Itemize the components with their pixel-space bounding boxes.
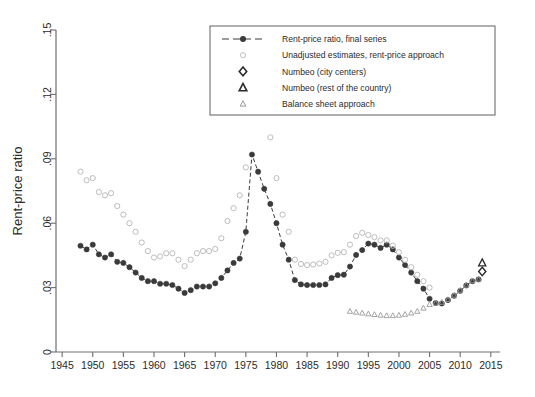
data-point-filled-circle xyxy=(164,281,169,286)
legend-label: Balance sheet approach xyxy=(282,99,375,109)
legend-label: Rent-price ratio, final series xyxy=(282,34,387,44)
y-axis-tick-label: .15 xyxy=(41,23,53,38)
data-point-filled-circle xyxy=(415,279,420,284)
y-axis-tick-label: .03 xyxy=(41,280,53,295)
x-axis-tick-label: 1955 xyxy=(112,359,136,371)
x-axis-tick-label: 1980 xyxy=(265,359,289,371)
data-point-filled-circle xyxy=(292,277,297,282)
legend-label: Unadjusted estimates, rent-price approac… xyxy=(282,50,444,60)
data-point-filled-circle xyxy=(329,275,334,280)
data-point-filled-circle xyxy=(121,260,126,265)
data-point-filled-circle xyxy=(255,169,260,174)
data-point-filled-circle xyxy=(268,201,273,206)
data-point-filled-circle xyxy=(200,284,205,289)
data-point-filled-circle xyxy=(427,296,432,301)
y-axis-label: Rent-price ratio xyxy=(10,147,25,236)
data-point-filled-circle xyxy=(421,286,426,291)
data-point-filled-circle xyxy=(366,241,371,246)
rent-price-ratio-chart: 0.03.06.09.12.15194519501955196019651970… xyxy=(0,0,535,397)
data-point-filled-circle xyxy=(402,262,407,267)
legend-label: Numbeo (rest of the country) xyxy=(282,83,392,93)
x-axis-tick-label: 1975 xyxy=(234,359,258,371)
y-axis-tick-label: .09 xyxy=(41,151,53,166)
data-point-filled-circle xyxy=(311,282,316,287)
data-point-filled-circle xyxy=(335,273,340,278)
data-point-filled-circle xyxy=(102,255,107,260)
data-point-filled-circle xyxy=(207,284,212,289)
chart-legend: Rent-price ratio, final seriesUnadjusted… xyxy=(210,26,495,115)
data-point-filled-circle xyxy=(225,268,230,273)
data-point-filled-circle xyxy=(274,221,279,226)
data-point-filled-circle xyxy=(286,257,291,262)
data-point-filled-circle xyxy=(409,270,414,275)
x-axis-tick-label: 1970 xyxy=(204,359,228,371)
data-point-filled-circle xyxy=(298,282,303,287)
y-axis-tick-label: .06 xyxy=(41,216,53,231)
x-axis-tick-label: 2005 xyxy=(418,359,442,371)
legend-filled-circle-icon xyxy=(240,36,246,42)
data-point-filled-circle xyxy=(243,229,248,234)
x-axis-tick-label: 2015 xyxy=(479,359,503,371)
y-axis-tick-label: 0 xyxy=(41,349,53,355)
data-point-filled-circle xyxy=(219,275,224,280)
data-point-filled-circle xyxy=(341,272,346,277)
data-point-filled-circle xyxy=(96,252,101,257)
data-point-filled-circle xyxy=(115,259,120,264)
data-point-filled-circle xyxy=(262,186,267,191)
data-point-filled-circle xyxy=(139,275,144,280)
x-axis-tick-label: 1985 xyxy=(295,359,319,371)
data-point-filled-circle xyxy=(109,252,114,257)
data-point-filled-circle xyxy=(231,260,236,265)
x-axis-tick-label: 2000 xyxy=(387,359,411,371)
data-point-filled-circle xyxy=(133,270,138,275)
data-point-filled-circle xyxy=(84,247,89,252)
data-point-filled-circle xyxy=(194,284,199,289)
x-axis-tick-label: 1960 xyxy=(142,359,166,371)
x-axis-tick-label: 1950 xyxy=(81,359,105,371)
x-axis-tick-label: 1965 xyxy=(173,359,197,371)
data-point-filled-circle xyxy=(304,282,309,287)
data-point-filled-circle xyxy=(347,264,352,269)
data-point-filled-circle xyxy=(280,242,285,247)
data-point-filled-circle xyxy=(353,252,358,257)
data-point-filled-circle xyxy=(378,245,383,250)
data-point-filled-circle xyxy=(360,247,365,252)
data-point-filled-circle xyxy=(237,256,242,261)
data-point-filled-circle xyxy=(372,242,377,247)
data-point-filled-circle xyxy=(188,288,193,293)
chart-figure: 0.03.06.09.12.15194519501955196019651970… xyxy=(0,0,535,397)
data-point-filled-circle xyxy=(170,282,175,287)
x-axis-tick-label: 2010 xyxy=(449,359,473,371)
y-axis-tick-label: .12 xyxy=(41,87,53,102)
data-point-filled-circle xyxy=(151,279,156,284)
x-axis-tick-label: 1945 xyxy=(50,359,74,371)
legend-label: Numbeo (city centers) xyxy=(282,67,366,77)
data-point-filled-circle xyxy=(182,290,187,295)
data-point-filled-circle xyxy=(158,281,163,286)
data-point-filled-circle xyxy=(176,286,181,291)
x-axis-tick-label: 1995 xyxy=(357,359,381,371)
data-point-filled-circle xyxy=(317,282,322,287)
data-point-filled-circle xyxy=(127,265,132,270)
y-axis-label-group: Rent-price ratio xyxy=(10,147,25,236)
data-point-filled-circle xyxy=(213,281,218,286)
x-axis-tick-label: 1990 xyxy=(326,359,350,371)
data-point-filled-circle xyxy=(249,152,254,157)
data-point-filled-circle xyxy=(90,242,95,247)
data-point-filled-circle xyxy=(396,255,401,260)
data-point-filled-circle xyxy=(78,243,83,248)
data-point-filled-circle xyxy=(323,282,328,287)
data-point-filled-circle xyxy=(145,279,150,284)
